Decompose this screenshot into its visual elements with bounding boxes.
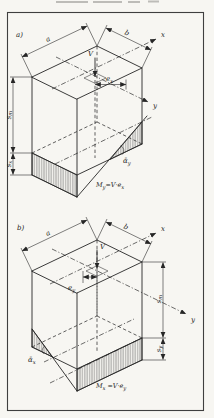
- figure-frame: [8, 13, 204, 411]
- edge-settlement-label-a: sx: [5, 161, 14, 168]
- panel-a-label: a): [16, 31, 23, 39]
- dim-a-label-b: a: [45, 229, 52, 238]
- figure-svg: a) a b x y V ex sm sx ᾱy My=V·ex: [0, 0, 214, 418]
- dim-b-label-a: b: [123, 29, 131, 38]
- eccentricity-label-b: ey: [68, 284, 75, 294]
- cropped-caption-fragment: [56, 2, 159, 3]
- mean-settlement-label-a: sm: [5, 111, 14, 120]
- moment-formula-a: My=V·ex: [95, 181, 124, 191]
- panel-b-label: b): [17, 224, 24, 232]
- diagram-a: a) a b x y V ex sm sx ᾱy My=V·ex: [5, 23, 166, 197]
- figure-page: a) a b x y V ex sm sx ᾱy My=V·ex: [0, 0, 214, 418]
- edge-settlement-label-b: sy: [155, 346, 165, 353]
- dim-a-label-a: a: [45, 35, 52, 44]
- moment-formula-b: Mx =V·ey: [95, 382, 126, 392]
- eccentricity-label-a: ex: [106, 75, 113, 84]
- tilt-angle-label-a: ᾱy: [123, 157, 131, 167]
- y-axis-line-b: [52, 249, 186, 314]
- x-axis-label-a: x: [161, 31, 165, 39]
- dimensions-a: [10, 23, 152, 175]
- tilt-angle-label-b: ᾱx: [28, 356, 36, 365]
- box-b-hidden-edges: [32, 240, 142, 352]
- y-axis-label-b: y: [190, 316, 196, 324]
- x-axis-line-a: [52, 39, 156, 89]
- y-axis-label-a: y: [152, 102, 158, 110]
- diagram-b: b) a b x y V ey sm sy ᾱx Mx =V·ey: [17, 217, 196, 392]
- x-axis-line-b: [50, 233, 156, 284]
- x-axis-label-b: x: [161, 225, 165, 233]
- load-label-a: V: [88, 50, 94, 58]
- load-a: [84, 58, 106, 83]
